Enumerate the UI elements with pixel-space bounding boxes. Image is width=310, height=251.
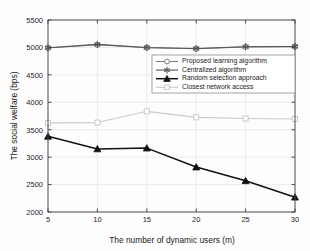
series-2: [45, 133, 299, 200]
series-line: [48, 111, 295, 123]
social-welfare-line-chart: 2000250030003500400045005000550051015202…: [0, 0, 310, 251]
y-tick-label: 2000: [26, 208, 43, 217]
x-tick-label: 30: [291, 215, 299, 224]
y-tick-label: 4500: [26, 71, 43, 80]
circle-marker: [165, 59, 170, 64]
legend-label: Closest network access: [182, 83, 254, 90]
y-tick-label: 4000: [26, 98, 43, 107]
x-axis-title: The number of dynamic users (m): [109, 235, 235, 245]
chart-figure: 2000250030003500400045005000550051015202…: [0, 0, 310, 251]
series-3: [46, 109, 298, 126]
series-1: [45, 41, 298, 52]
legend-label: Random selection approach: [182, 74, 267, 82]
x-tick-label: 25: [241, 215, 249, 224]
square-marker: [144, 109, 149, 114]
square-marker: [165, 85, 170, 90]
y-tick-label: 5500: [26, 16, 43, 25]
y-tick-label: 2500: [26, 180, 43, 189]
series-line: [48, 44, 295, 48]
y-tick-label: 3500: [26, 126, 43, 135]
x-tick-label: 10: [93, 215, 101, 224]
series-line: [48, 136, 295, 197]
x-tick-label: 20: [192, 215, 200, 224]
square-marker: [95, 120, 100, 125]
y-tick-label: 3000: [26, 153, 43, 162]
y-axis-title: The social welfare (bps): [9, 71, 19, 160]
x-tick-label: 5: [46, 215, 50, 224]
square-marker: [243, 116, 248, 121]
chart-legend: Proposed learning algorithmCentralized a…: [152, 55, 295, 93]
legend-label: Proposed learning algorithm: [182, 57, 267, 65]
y-tick-label: 5000: [26, 43, 43, 52]
square-marker: [194, 115, 199, 120]
x-tick-label: 15: [143, 215, 151, 224]
legend-label: Centralized algorithm: [182, 66, 247, 74]
